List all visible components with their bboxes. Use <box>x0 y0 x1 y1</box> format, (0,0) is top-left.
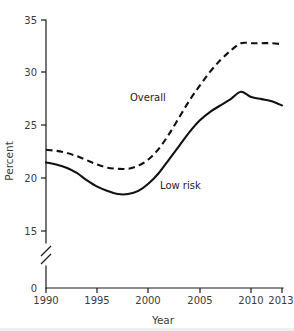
series-annotation-overall: Overall <box>130 92 166 103</box>
x-tick-label-2005: 2005 <box>187 295 212 306</box>
x-tick-label-2010: 2010 <box>238 295 263 306</box>
line-chart: 35 30 25 20 15 0 1990 1995 2000 2005 201… <box>0 0 294 331</box>
x-tick-label-2000: 2000 <box>135 295 160 306</box>
x-tick-label-1995: 1995 <box>84 295 109 306</box>
x-tick-label-2013: 2013 <box>268 295 293 306</box>
series-line-overall <box>46 43 282 169</box>
y-axis-break-slash-lower <box>41 254 51 264</box>
x-axis-title: Year <box>151 314 175 326</box>
chart-figure: 35 30 25 20 15 0 1990 1995 2000 2005 201… <box>0 0 294 331</box>
x-tick-label-1990: 1990 <box>33 295 58 306</box>
y-axis-title: Percent <box>3 141 15 181</box>
y-tick-label-35: 35 <box>24 15 37 26</box>
y-tick-label-20: 20 <box>24 173 37 184</box>
series-annotation-low-risk: Low risk <box>160 180 201 191</box>
y-tick-label-30: 30 <box>24 67 37 78</box>
y-tick-label-25: 25 <box>24 120 37 131</box>
y-tick-label-0: 0 <box>31 283 37 294</box>
y-axis-break-slash-upper <box>41 246 51 256</box>
y-tick-label-15: 15 <box>24 226 37 237</box>
